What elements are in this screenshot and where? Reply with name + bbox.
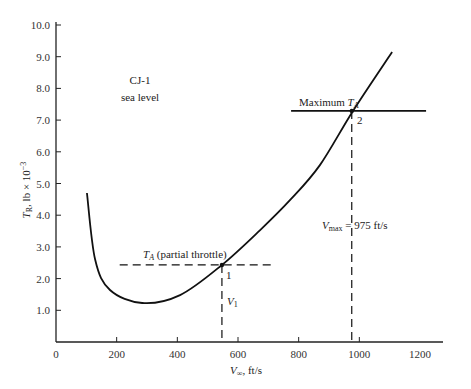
- point-2-label: 2: [357, 114, 363, 126]
- x-tick-label: 200: [108, 348, 125, 360]
- y-tick-label: 3.0: [36, 241, 50, 253]
- y-tick-label: 4.0: [36, 209, 50, 221]
- x-tick-label: 800: [290, 348, 307, 360]
- thrust-required-chart: 1.02.03.04.05.06.07.08.09.010.0 02004006…: [0, 0, 471, 389]
- y-tick-label: 6.0: [36, 146, 50, 158]
- vmax-label: Vmax = 975 ft/s: [322, 219, 388, 233]
- aircraft-label: CJ-1: [130, 74, 151, 86]
- x-tick-label: 600: [230, 348, 247, 360]
- y-tick-label: 7.0: [36, 114, 50, 126]
- y-axis-label: TR, lb × 10−3: [19, 162, 34, 219]
- x-axis-ticks: 020040060080010001200: [53, 337, 431, 360]
- y-tick-label: 9.0: [36, 51, 50, 63]
- y-tick-label: 8.0: [36, 82, 50, 94]
- x-tick-label: 0: [53, 348, 59, 360]
- point-1-label: 1: [226, 269, 232, 281]
- x-tick-label: 400: [169, 348, 186, 360]
- x-tick-label: 1000: [348, 348, 371, 360]
- maximum-ta-label: Maximum TA: [299, 96, 359, 110]
- x-axis-label: V∞, ft/s: [230, 364, 262, 378]
- y-tick-label: 10.0: [31, 19, 51, 31]
- y-tick-label: 1.0: [36, 304, 50, 316]
- altitude-label: sea level: [121, 91, 159, 103]
- x-tick-label: 1200: [409, 348, 432, 360]
- intersection-point-1: [220, 263, 224, 267]
- v1-label: V1: [227, 295, 238, 309]
- y-tick-label: 2.0: [36, 273, 50, 285]
- partial-throttle-label: TA (partial throttle): [143, 248, 227, 262]
- y-tick-label: 5.0: [36, 178, 50, 190]
